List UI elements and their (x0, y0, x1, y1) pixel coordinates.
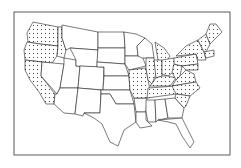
us-map (0, 0, 241, 168)
state-north-dakota (98, 32, 125, 48)
state-arkansas (134, 98, 147, 112)
state-florida (158, 118, 194, 148)
state-kansas (103, 76, 130, 90)
state-montana (62, 25, 98, 50)
state-washington (27, 22, 58, 46)
state-colorado (78, 66, 104, 90)
state-new-mexico (75, 88, 101, 116)
state-south-dakota (97, 48, 125, 64)
state-mississippi (146, 100, 156, 122)
state-oregon (24, 42, 58, 63)
